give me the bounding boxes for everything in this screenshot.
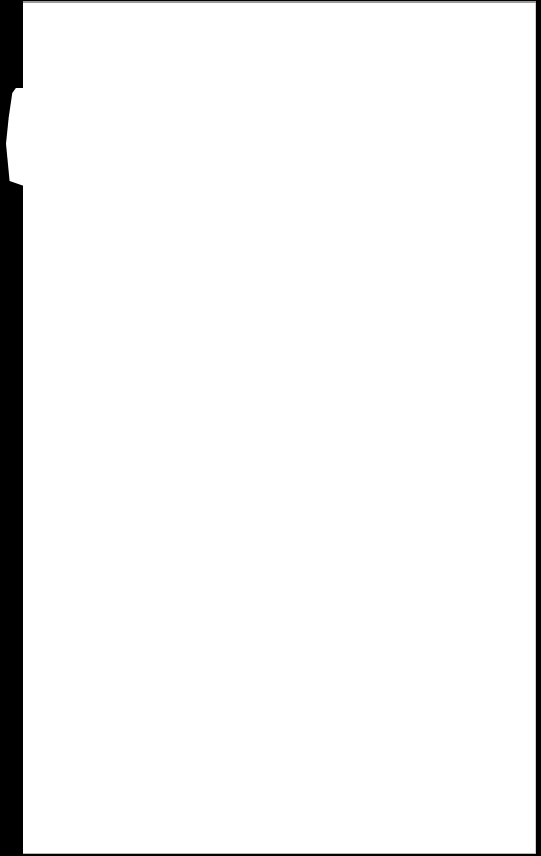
side-tab-handle[interactable] (6, 88, 24, 186)
right-frame-border (536, 0, 541, 856)
blank-page (23, 1, 536, 854)
